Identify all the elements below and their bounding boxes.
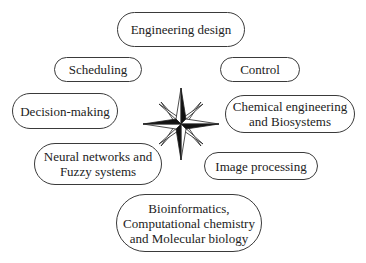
node-chemical-engineering: Chemical engineering and Biosystems: [225, 95, 355, 133]
node-label-line2: Computational chemistry: [123, 216, 255, 231]
node-decision-making: Decision-making: [12, 93, 118, 129]
node-label: Engineering design: [131, 22, 232, 37]
node-engineering-design: Engineering design: [117, 12, 245, 47]
node-label: Scheduling: [69, 62, 128, 77]
node-scheduling: Scheduling: [54, 57, 142, 82]
node-label-line1: Neural networks and: [44, 149, 152, 164]
node-label: Decision-making: [20, 104, 110, 119]
node-label-line1: Bioinformatics,: [123, 201, 255, 216]
node-label-line1: Chemical engineering: [233, 99, 347, 114]
node-bioinformatics: Bioinformatics, Computational chemistry …: [116, 194, 262, 252]
compass-rose-icon: [141, 86, 221, 160]
node-label: Control: [240, 62, 280, 77]
node-label: Image processing: [215, 159, 306, 174]
node-control: Control: [220, 57, 300, 82]
node-label-line2: and Biosystems: [233, 114, 347, 129]
node-label-line2: Fuzzy systems: [44, 164, 152, 179]
node-image-processing: Image processing: [204, 152, 318, 180]
node-label-line3: and Molecular biology: [123, 231, 255, 246]
